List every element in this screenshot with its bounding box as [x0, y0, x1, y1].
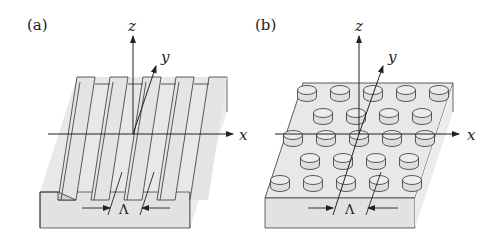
pillar	[397, 86, 416, 102]
pillar	[380, 109, 399, 125]
pillar	[413, 109, 432, 125]
z-label-b: z	[354, 17, 363, 35]
panel-label-b: (b)	[255, 16, 276, 34]
pillar	[301, 154, 320, 170]
pillar	[430, 86, 449, 102]
pillar	[400, 154, 419, 170]
figure-canvas: (a) z y x Λ (b) z y x Λ	[0, 0, 497, 250]
pillar	[314, 109, 333, 125]
y-label-a: y	[160, 48, 170, 66]
pillar	[317, 131, 336, 147]
panel-label-a: (a)	[27, 16, 48, 34]
panel-b	[265, 36, 459, 228]
pillar	[284, 131, 303, 147]
x-label-a: x	[239, 126, 248, 144]
x-label-b: x	[467, 126, 476, 144]
pillar	[367, 154, 386, 170]
pillar	[416, 131, 435, 147]
pillar	[298, 86, 317, 102]
y-label-b: y	[387, 48, 397, 66]
pillar	[271, 176, 290, 192]
period-label-a: Λ	[118, 202, 129, 217]
z-label-a: z	[127, 17, 136, 35]
period-label-b: Λ	[344, 202, 355, 217]
pillar	[383, 131, 402, 147]
pillar	[331, 86, 350, 102]
substrate-front-b	[265, 198, 415, 228]
pillar	[304, 176, 323, 192]
pillar	[403, 176, 422, 192]
pillar	[337, 176, 356, 192]
pillar	[347, 109, 366, 125]
panel-a	[40, 36, 233, 228]
